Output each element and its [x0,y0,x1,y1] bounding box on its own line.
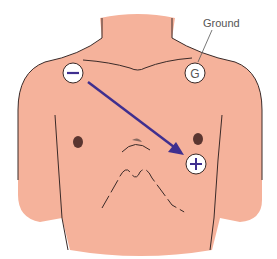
ground-electrode: G [185,63,205,83]
negative-electrode [63,63,83,83]
chest-diagram: G [0,0,277,259]
left-nipple [73,136,83,148]
ground-label: Ground [203,17,240,29]
svg-text:G: G [190,67,199,81]
right-nipple [193,133,203,145]
torso [18,14,262,256]
positive-electrode [186,154,206,174]
